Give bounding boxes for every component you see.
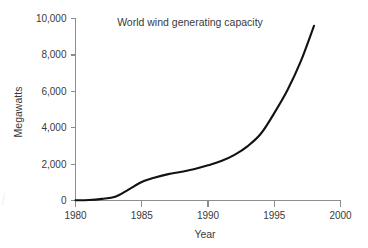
chart-container: 02,0004,0006,0008,00010,000 198019851990… [0,0,368,248]
data-series-line [76,26,315,201]
y-tick-label: 10,000 [36,13,67,24]
x-tick-label: 1990 [197,210,220,221]
y-tick-label: 0 [61,195,67,206]
y-axis-ticks: 02,0004,0006,0008,00010,000 [36,13,76,206]
x-tick-label: 1980 [64,210,87,221]
y-tick-label: 6,000 [41,86,66,97]
line-chart: 02,0004,0006,0008,00010,000 198019851990… [0,0,368,248]
y-tick-label: 8,000 [41,49,66,60]
chart-title: World wind generating capacity [117,16,263,28]
x-axis-ticks: 19801985199019952000 [64,201,352,221]
y-tick-label: 4,000 [41,122,66,133]
x-tick-label: 2000 [329,210,352,221]
x-tick-label: 1985 [131,210,154,221]
y-tick-label: 2,000 [41,159,66,170]
y-axis-title: Megawatts [12,87,24,138]
x-axis-title: Year [194,228,216,240]
x-tick-label: 1995 [263,210,286,221]
